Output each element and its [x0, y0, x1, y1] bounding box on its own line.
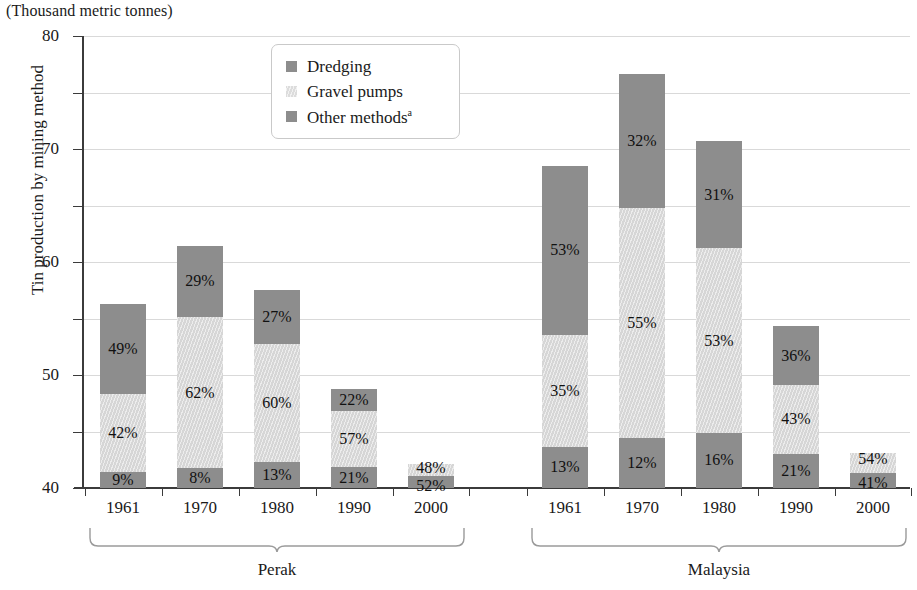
- stacked-bar[interactable]: 13%60%27%: [254, 290, 300, 488]
- segment-pct-label: 62%: [185, 385, 214, 401]
- legend-item[interactable]: Dredging: [286, 54, 449, 79]
- group-label: Perak: [258, 560, 297, 580]
- segment-pct-label: 52%: [416, 478, 445, 494]
- square-swatch-dredging-icon: [286, 61, 297, 72]
- x-axis-label: 1961: [548, 498, 582, 518]
- gridline: [82, 36, 910, 37]
- segment-pct-label: 21%: [781, 463, 810, 479]
- bar-segment-other[interactable]: 16%: [696, 433, 742, 488]
- bar-segment-dredging[interactable]: 29%: [177, 246, 223, 317]
- bar-segment-dredging[interactable]: 49%: [100, 304, 146, 394]
- stacked-bar[interactable]: 13%35%53%: [542, 166, 588, 488]
- bar-segment-other[interactable]: 9%: [100, 472, 146, 488]
- y-tick-label: 80: [42, 26, 59, 46]
- y-axis-title: Tin production by mining method: [28, 30, 48, 330]
- chart-legend: Dredging Gravel pumps Other methodsa: [271, 44, 460, 139]
- y-tick-mark: 40: [73, 262, 82, 263]
- stacked-bar[interactable]: 16%53%31%: [696, 141, 742, 488]
- y-tick-label: 40: [42, 478, 59, 498]
- stacked-bar[interactable]: 9%42%49%: [100, 304, 146, 488]
- segment-pct-label: 13%: [550, 459, 579, 475]
- segment-pct-label: 36%: [781, 348, 810, 364]
- bar-segment-gravel[interactable]: 54%: [850, 453, 896, 473]
- legend-item[interactable]: Other methodsa: [286, 104, 449, 129]
- x-axis-label: 1980: [260, 498, 294, 518]
- bar-segment-gravel[interactable]: 43%: [773, 385, 819, 454]
- x-axis-label: 1970: [183, 498, 217, 518]
- y-tick-mark: 60: [73, 149, 82, 150]
- bar-segment-gravel[interactable]: 55%: [619, 208, 665, 438]
- gridline: [82, 93, 910, 94]
- x-tick-mark: [835, 488, 836, 496]
- segment-pct-label: 32%: [627, 133, 656, 149]
- bar-segment-other[interactable]: 8%: [177, 468, 223, 488]
- legend-label-other-methods: Other methodsa: [307, 108, 412, 126]
- stacked-bar[interactable]: 21%43%36%: [773, 326, 819, 488]
- chart-plot-area: 01020304050607080 9%42%49%8%62%29%13%60%…: [82, 36, 910, 488]
- bar-segment-gravel[interactable]: 60%: [254, 344, 300, 462]
- x-tick-mark: [758, 488, 759, 496]
- bar-segment-dredging[interactable]: 36%: [773, 326, 819, 384]
- x-tick-mark: [162, 488, 163, 496]
- segment-pct-label: 48%: [416, 460, 445, 476]
- legend-label-other-methods-text: Other methods: [307, 107, 408, 126]
- segment-pct-label: 22%: [339, 392, 368, 408]
- bar-segment-other[interactable]: 12%: [619, 438, 665, 488]
- gridline: [82, 206, 910, 207]
- segment-pct-label: 49%: [108, 341, 137, 357]
- bar-segment-gravel[interactable]: 53%: [696, 248, 742, 432]
- square-swatch-gravel-pumps-icon: [286, 86, 297, 97]
- stacked-bar[interactable]: 52%48%: [408, 464, 454, 488]
- x-tick-mark: [604, 488, 605, 496]
- segment-pct-label: 29%: [185, 273, 214, 289]
- stacked-bar[interactable]: 41%54%: [850, 451, 896, 488]
- group-brace: [88, 526, 466, 552]
- bar-segment-gravel[interactable]: 42%: [100, 394, 146, 471]
- stacked-bar[interactable]: 21%57%22%: [331, 389, 377, 488]
- bar-segment-other[interactable]: 41%: [850, 473, 896, 488]
- bar-segment-other[interactable]: 13%: [542, 447, 588, 488]
- bar-segment-dredging[interactable]: 53%: [542, 166, 588, 335]
- segment-pct-label: 54%: [858, 451, 887, 467]
- y-tick-mark: 80: [73, 36, 82, 37]
- bar-segment-other[interactable]: 21%: [331, 467, 377, 488]
- bar-segment-dredging[interactable]: 27%: [254, 290, 300, 344]
- x-axis-label: 2000: [856, 498, 890, 518]
- segment-pct-label: 60%: [262, 395, 291, 411]
- bar-segment-gravel[interactable]: 35%: [542, 335, 588, 447]
- segment-pct-label: 35%: [550, 383, 579, 399]
- y-tick-mark: 30: [73, 319, 82, 320]
- bar-segment-other[interactable]: 13%: [254, 462, 300, 488]
- stacked-bar[interactable]: 8%62%29%: [177, 243, 223, 488]
- units-note: (Thousand metric tonnes): [6, 2, 173, 20]
- legend-item[interactable]: Gravel pumps: [286, 79, 449, 104]
- segment-pct-label: 21%: [339, 470, 368, 486]
- segment-pct-label: 41%: [858, 475, 887, 491]
- segment-pct-label: 13%: [262, 467, 291, 483]
- x-tick-mark: [316, 488, 317, 496]
- bar-segment-dredging[interactable]: 32%: [619, 74, 665, 208]
- y-tick-mark: 70: [73, 93, 82, 94]
- bar-segment-dredging[interactable]: 31%: [696, 141, 742, 249]
- bar-segment-other[interactable]: 52%: [408, 476, 454, 488]
- bar-segment-gravel[interactable]: 48%: [408, 464, 454, 475]
- bar-segment-gravel[interactable]: 57%: [331, 411, 377, 467]
- x-axis-label: 1990: [779, 498, 813, 518]
- bar-segment-other[interactable]: 21%: [773, 454, 819, 488]
- group-label: Malaysia: [688, 560, 750, 580]
- y-tick-label: 70: [42, 139, 59, 159]
- bar-segment-gravel[interactable]: 62%: [177, 317, 223, 468]
- bar-segment-dredging[interactable]: 22%: [331, 389, 377, 411]
- y-tick-mark: 50: [73, 206, 82, 207]
- segment-pct-label: 8%: [189, 470, 210, 486]
- x-axis-label: 1990: [337, 498, 371, 518]
- x-axis-label: 1961: [106, 498, 140, 518]
- x-axis-label: 1980: [702, 498, 736, 518]
- segment-pct-label: 9%: [112, 472, 133, 488]
- y-tick-label: 50: [42, 365, 59, 385]
- x-tick-mark: [85, 488, 86, 496]
- segment-pct-label: 31%: [704, 187, 733, 203]
- stacked-bar[interactable]: 12%55%32%: [619, 70, 665, 488]
- x-tick-mark: [527, 488, 528, 496]
- segment-pct-label: 57%: [339, 431, 368, 447]
